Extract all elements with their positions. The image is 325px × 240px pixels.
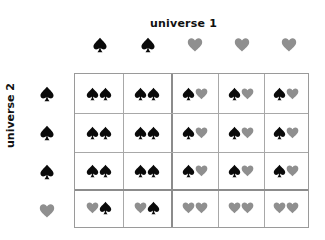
heart-icon [187, 37, 203, 53]
spade-icon [134, 126, 147, 140]
universe-2-label: universe 2 [4, 83, 17, 148]
spade-icon [147, 164, 160, 178]
grid-cell [75, 152, 123, 189]
spade-icon [182, 164, 195, 178]
grid-cell [218, 74, 264, 113]
universe-1-label: universe 1 [150, 17, 217, 30]
spade-icon [86, 164, 99, 178]
heart-icon [241, 87, 254, 101]
spade-icon [273, 126, 286, 140]
grid-cell [218, 113, 264, 152]
heart-icon [281, 37, 297, 53]
spade-icon [134, 87, 147, 101]
spade-icon [134, 164, 147, 178]
spade-icon [228, 87, 241, 101]
spade-icon [147, 201, 160, 215]
heart-icon [195, 164, 208, 178]
grid-cell [123, 189, 171, 227]
grid-cell [123, 74, 171, 113]
spade-icon [39, 86, 55, 102]
spade-icon [228, 126, 241, 140]
grid-cell [171, 152, 218, 189]
heart-icon [273, 201, 286, 215]
heart-icon [241, 201, 254, 215]
heart-icon [228, 201, 241, 215]
spade-icon [182, 87, 195, 101]
heart-icon [286, 201, 299, 215]
spade-icon [86, 126, 99, 140]
spade-icon [182, 126, 195, 140]
heart-icon [195, 87, 208, 101]
heart-icon [234, 37, 250, 53]
spade-icon [86, 87, 99, 101]
spade-icon [273, 164, 286, 178]
heart-icon [286, 87, 299, 101]
spade-icon [99, 87, 112, 101]
spade-icon [147, 87, 160, 101]
spade-icon [147, 126, 160, 140]
grid-cell [171, 74, 218, 113]
grid-cell [218, 189, 264, 227]
spade-icon [39, 164, 55, 180]
grid-cell [123, 113, 171, 152]
grid-cell [171, 113, 218, 152]
grid-cell [264, 113, 308, 152]
grid-cell [75, 74, 123, 113]
product-grid [74, 73, 309, 228]
heart-icon [195, 126, 208, 140]
heart-icon [286, 164, 299, 178]
heart-icon [86, 201, 99, 215]
spade-icon [228, 164, 241, 178]
grid-cell [264, 189, 308, 227]
heart-icon [182, 201, 195, 215]
grid-cell [75, 113, 123, 152]
grid-cell [264, 152, 308, 189]
grid-cell [75, 189, 123, 227]
spade-icon [273, 87, 286, 101]
grid-cell [218, 152, 264, 189]
heart-icon [241, 126, 254, 140]
grid-cell [171, 189, 218, 227]
spade-icon [140, 37, 156, 53]
spade-icon [92, 37, 108, 53]
spade-icon [99, 201, 112, 215]
heart-icon [195, 201, 208, 215]
grid-cell [123, 152, 171, 189]
spade-icon [99, 126, 112, 140]
heart-icon [134, 201, 147, 215]
spade-icon [99, 164, 112, 178]
heart-icon [241, 164, 254, 178]
heart-icon [39, 203, 55, 219]
heart-icon [286, 126, 299, 140]
grid-cell [264, 74, 308, 113]
spade-icon [39, 125, 55, 141]
